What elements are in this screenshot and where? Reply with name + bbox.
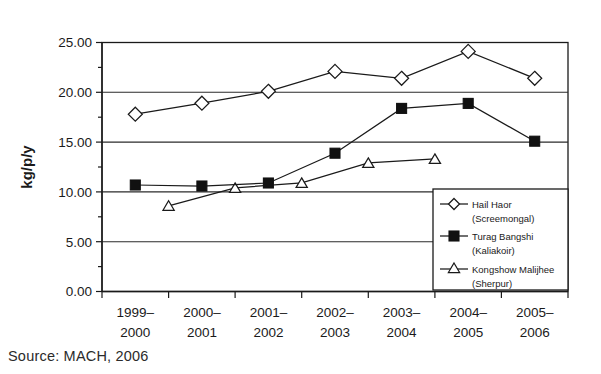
y-tick-label: 0.00 bbox=[66, 284, 92, 299]
legend-label: Turag Bangshi bbox=[472, 231, 533, 242]
x-tick-label-line1: 2001– bbox=[250, 305, 288, 320]
source-caption: Source: MACH, 2006 bbox=[8, 348, 149, 364]
y-tick-label: 25.00 bbox=[58, 35, 92, 50]
x-tick-label-line1: 2002– bbox=[316, 305, 354, 320]
y-tick-label: 20.00 bbox=[58, 85, 92, 100]
x-tick-label-line2: 2001 bbox=[187, 325, 217, 340]
legend-marker-filled-square-icon bbox=[449, 231, 459, 241]
x-tick-label-line2: 2002 bbox=[253, 325, 283, 340]
x-tick-label-line2: 2005 bbox=[453, 325, 483, 340]
x-tick-label-line2: 2004 bbox=[387, 325, 418, 340]
legend-label-second-line: (Sherpur) bbox=[472, 278, 512, 289]
legend-label-second-line: (Screemongal) bbox=[472, 213, 534, 224]
figure-container: kg/p/y 25.00 20.00 15.00 10.00 5.00 0.00 bbox=[0, 0, 601, 374]
y-axis-tick-labels: 25.00 20.00 15.00 10.00 5.00 0.00 bbox=[58, 35, 92, 299]
y-tick-label: 15.00 bbox=[58, 135, 92, 150]
y-tick-label: 10.00 bbox=[58, 185, 92, 200]
x-tick-label-line2: 2003 bbox=[320, 325, 350, 340]
x-axis-tick-labels: 1999– 2000 2000– 2001 2001– 2002 2002– 2… bbox=[117, 305, 554, 340]
x-tick-label-line1: 1999– bbox=[117, 305, 155, 320]
x-tick-label-line1: 2000– bbox=[183, 305, 221, 320]
x-tick-label-line1: 2003– bbox=[383, 305, 421, 320]
legend-label-second-line: (Kaliakoir) bbox=[472, 245, 515, 256]
line-chart: kg/p/y 25.00 20.00 15.00 10.00 5.00 0.00 bbox=[0, 0, 601, 374]
x-axis-ticks bbox=[102, 292, 568, 299]
y-axis-ticks bbox=[96, 43, 102, 292]
x-tick-label-line1: 2005– bbox=[516, 305, 554, 320]
x-tick-label-line2: 2000 bbox=[120, 325, 150, 340]
chart-legend: Hail Haor (Screemongal) Turag Bangshi (K… bbox=[433, 189, 568, 290]
y-tick-label: 5.00 bbox=[66, 235, 92, 250]
legend-label: Kongshow Malijhee bbox=[472, 264, 554, 275]
y-axis-label: kg/p/y bbox=[18, 145, 35, 189]
x-tick-label-line2: 2006 bbox=[520, 325, 550, 340]
x-tick-label-line1: 2004– bbox=[449, 305, 487, 320]
legend-label: Hail Haor bbox=[472, 199, 512, 210]
series-turag-bangshi bbox=[130, 98, 539, 191]
